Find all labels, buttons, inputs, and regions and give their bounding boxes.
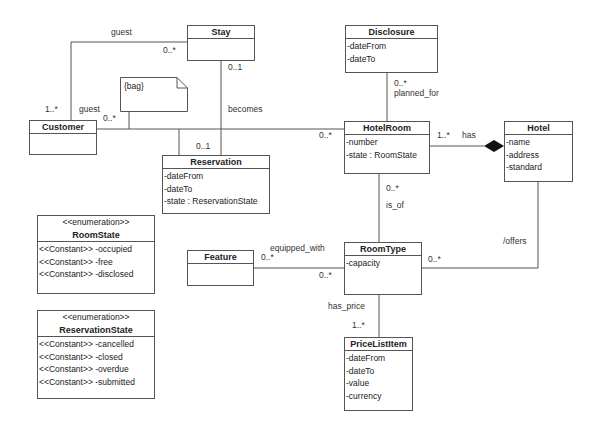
class-name: Reservation [163,156,269,169]
multiplicity-feature: 0..* [261,252,274,262]
class-name: Customer [30,121,96,134]
role-is-of: is_of [386,200,404,210]
role-has: has [462,130,476,140]
role-planned-for: planned_for [394,88,439,98]
attribute: -capacity [346,257,421,270]
multiplicity-reservation: 0..1 [196,141,210,151]
attribute: -number [346,136,429,149]
attribute: -state : ReservationState [164,195,269,208]
multiplicity-hotelroom-isof: 0..* [386,183,399,193]
stereotype: <<enumeration>> [38,311,154,324]
class-name: ReservationState [59,325,133,335]
attribute: -dateFrom [347,40,437,53]
class-reservation[interactable]: Reservation -dateFrom -dateTo -state : R… [162,155,270,214]
enum-constant: <<Constant>> -submitted [39,376,154,389]
attribute: -standard [506,161,572,174]
enum-constant: <<Constant>> -cancelled [39,338,154,351]
attribute: -value [346,377,412,390]
attribute: -dateFrom [164,170,269,183]
stereotype: <<enumeration>> [38,216,154,229]
multiplicity-customer-top: 1..* [45,104,58,114]
multiplicity-stay-guest: 0..* [163,45,176,55]
class-roomtype[interactable]: RoomType -capacity [344,242,422,295]
multiplicity-stay: 0..1 [228,62,242,72]
multiplicity-roomtype-feature: 0..* [319,270,332,280]
enum-reservationstate[interactable]: <<enumeration>> ReservationState <<Const… [37,310,155,399]
enum-constant: <<Constant>> -occupied [39,243,154,256]
attribute: -dateTo [346,365,412,378]
enum-constant: <<Constant>> -free [39,256,154,269]
class-name: Feature [188,251,253,264]
multiplicity-hotelroom-left: 0..* [319,130,332,140]
multiplicity-disclosure: 0..* [394,78,407,88]
class-name: Hotel [505,122,572,135]
multiplicity-roomtype-offers: 0..* [428,254,441,264]
multiplicity-price: 1..* [352,320,365,330]
role-equipped-with: equipped_with [270,243,325,253]
attribute: -state : RoomState [346,149,429,162]
class-hotel[interactable]: Hotel -name -address -standard [504,121,573,182]
class-name: PriceListItem [345,338,412,351]
role-offers: /offers [503,236,526,246]
attribute: -dateTo [164,183,269,196]
multiplicity-hotelroom-has: 1..* [437,130,450,140]
enum-constant: <<Constant>> -disclosed [39,268,154,281]
role-has-price: has_price [328,301,365,311]
attribute: -dateFrom [346,352,412,365]
class-name: Disclosure [346,26,437,39]
class-feature[interactable]: Feature [187,250,254,286]
attribute: -currency [346,390,412,403]
note-text: {bag} [124,81,144,91]
class-name: Stay [188,26,254,39]
class-name: RoomState [72,230,120,240]
attribute: -dateTo [347,53,437,66]
class-customer[interactable]: Customer [29,120,97,155]
role-guest-top: guest [111,27,132,37]
attribute: -name [506,136,572,149]
enum-constant: <<Constant>> -overdue [39,363,154,376]
class-name: RoomType [345,243,421,256]
composition-diamond-icon [484,140,504,152]
enum-constant: <<Constant>> -closed [39,351,154,364]
class-pricelistitem[interactable]: PriceListItem -dateFrom -dateTo -value -… [344,337,413,411]
role-guest-side: guest [79,104,100,114]
enum-roomstate[interactable]: <<enumeration>> RoomState <<Constant>> -… [37,215,155,294]
class-name: HotelRoom [345,122,429,135]
attribute: -address [506,149,572,162]
class-stay[interactable]: Stay [187,25,255,61]
multiplicity-customer-hotelroom: 0..* [103,113,116,123]
class-disclosure[interactable]: Disclosure -dateFrom -dateTo [345,25,438,73]
role-becomes: becomes [228,104,263,114]
class-hotelroom[interactable]: HotelRoom -number -state : RoomState [344,121,430,174]
bag-note: {bag} [120,77,188,112]
